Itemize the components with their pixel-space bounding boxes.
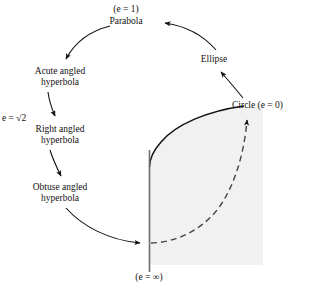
edge-right-to-obtuse-hyperbola	[50, 150, 61, 176]
label-acute-angled-hyperbola-line2: hyperbola	[18, 77, 102, 88]
label-parabola: Parabola	[96, 16, 156, 27]
label-obtuse-angled-hyperbola-line1: Obtuse angled	[18, 182, 102, 193]
label-ellipse: Ellipse	[186, 54, 242, 65]
label-obtuse-angled-hyperbola-line2: hyperbola	[18, 193, 102, 204]
edge-parabola-to-acute-hyperbola	[66, 26, 110, 59]
edge-ellipse-to-parabola	[165, 23, 216, 50]
label-eccentricity-sqrt-two: e = √2	[2, 113, 50, 124]
label-eccentricity-one: (e = 1)	[96, 4, 156, 15]
label-acute-angled-hyperbola-line1: Acute angled	[18, 66, 102, 77]
conic-eccentricity-diagram: (e = 1) Parabola Ellipse Circle (e = 0) …	[0, 0, 312, 294]
label-circle: Circle (e = 0)	[232, 100, 312, 111]
label-acute-angled-hyperbola: Acute angled hyperbola	[18, 66, 102, 88]
label-eccentricity-infinity: (e = ∞)	[118, 272, 180, 283]
edge-obtuse-hyperbola-to-degenerate	[66, 208, 140, 243]
label-right-angled-hyperbola-line1: Right angled	[18, 124, 102, 135]
label-right-angled-hyperbola-line2: hyperbola	[18, 135, 102, 146]
diagram-canvas	[0, 0, 312, 294]
label-right-angled-hyperbola: Right angled hyperbola	[18, 124, 102, 146]
edge-circle-to-ellipse	[221, 72, 243, 98]
label-obtuse-angled-hyperbola: Obtuse angled hyperbola	[18, 182, 102, 204]
